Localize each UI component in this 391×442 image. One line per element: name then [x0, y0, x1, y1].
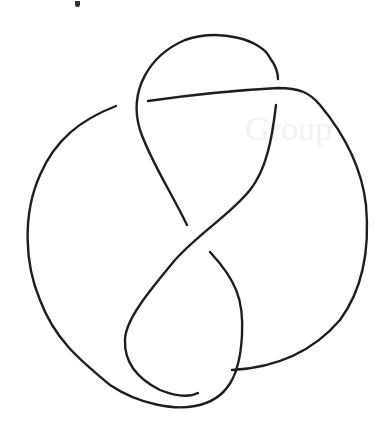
knot-strand-right-outer	[148, 88, 367, 370]
knot-strand-top-loop	[137, 35, 278, 225]
knot-diagram	[0, 0, 391, 442]
knot-strand-left-outer	[28, 106, 243, 407]
